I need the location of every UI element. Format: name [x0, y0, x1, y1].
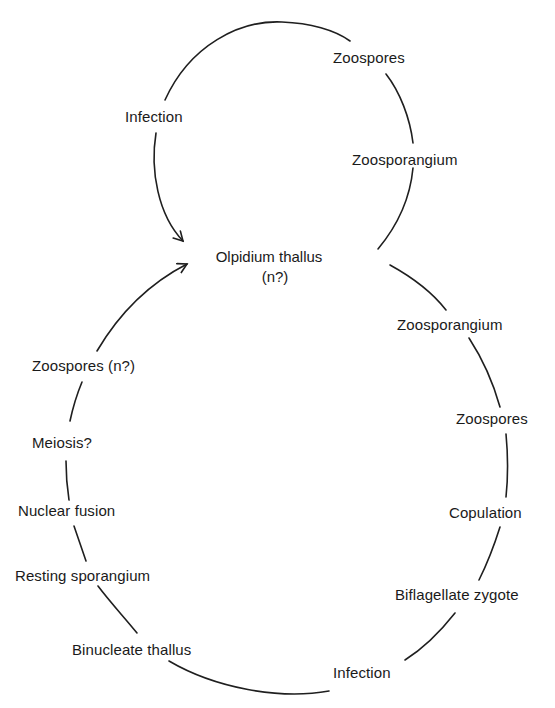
stage-zoospores-right: Zoospores — [456, 410, 528, 428]
stage-zoospores-haploid: Zoospores (n?) — [32, 357, 135, 375]
stage-binucleate-thallus: Binucleate thallus — [72, 641, 191, 659]
arrow-zoospores-to-thallus — [97, 264, 187, 351]
stage-resting-sporangium: Resting sporangium — [15, 567, 150, 585]
line-zoospores-to-copulation — [506, 434, 508, 497]
arc-infection-to-zoospores — [165, 22, 350, 100]
line-resting-to-nuclear — [74, 526, 86, 561]
stage-nuclear-fusion: Nuclear fusion — [18, 502, 115, 520]
line-zygote-to-infection — [405, 613, 455, 660]
stage-meiosis: Meiosis? — [32, 434, 92, 452]
stage-zoosporangium-top: Zoosporangium — [352, 151, 458, 169]
arc-zoospores-to-zoosporangium — [386, 74, 413, 143]
arc-zoosporangium-to-thallus — [378, 168, 413, 249]
line-meiosis-to-zoospores — [70, 382, 82, 421]
line-zoosporangium-to-zoospores — [469, 338, 500, 407]
stage-biflagellate-zygote: Biflagellate zygote — [395, 586, 519, 604]
stage-infection-top: Infection — [125, 108, 183, 126]
line-copulation-to-zygote — [479, 527, 500, 580]
stage-copulation: Copulation — [449, 504, 522, 522]
arrow-infection-to-thallus — [154, 133, 183, 241]
stage-zoospores-top: Zoospores — [333, 49, 405, 67]
line-thallus-to-zoosporangium — [390, 265, 446, 310]
line-binucleate-to-resting — [98, 586, 137, 633]
olpidium-thallus-label: Olpidium thallus — [198, 247, 340, 267]
line-infection-to-binucleate — [169, 661, 329, 694]
stage-zoosporangium-right: Zoosporangium — [397, 316, 503, 334]
stage-infection-bottom: Infection — [333, 664, 391, 682]
center-node-olpidium-thallus: Olpidium thallus (n?) — [198, 247, 340, 287]
line-nuclear-to-meiosis — [66, 461, 69, 500]
olpidium-ploidy-label: (n?) — [210, 267, 340, 287]
